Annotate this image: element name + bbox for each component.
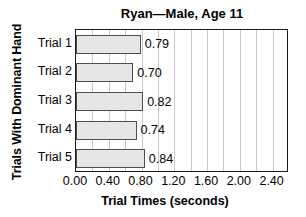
bar-row: 0.79 — [76, 35, 287, 54]
bar — [76, 92, 143, 111]
y-axis-tick-label: Trial 2 — [22, 62, 72, 81]
bar-value-label: 0.70 — [133, 66, 161, 80]
bar-series: 0.790.700.820.740.84 — [76, 30, 287, 171]
bar-value-label: 0.84 — [145, 152, 173, 166]
bar-row: 0.74 — [76, 121, 287, 140]
plot-area: 0.790.700.820.740.84 — [75, 29, 288, 172]
bar — [76, 35, 141, 54]
x-axis-tick-label: 0.40 — [96, 174, 120, 188]
x-axis-tick-label: 1.60 — [194, 174, 218, 188]
bar-value-label: 0.74 — [137, 123, 165, 137]
chart-title: Ryan—Male, Age 11 — [75, 6, 289, 21]
y-axis-tick-labels: Trial 1Trial 2Trial 3Trial 4Trial 5 — [22, 29, 72, 172]
bar-row: 0.84 — [76, 149, 287, 168]
y-axis-tick-label: Trial 4 — [22, 120, 72, 139]
bar-value-label: 0.82 — [143, 95, 171, 109]
x-axis-title: Trial Times (seconds) — [40, 194, 290, 208]
bar-value-label: 0.79 — [141, 37, 169, 51]
y-axis-tick-label: Trial 3 — [22, 91, 72, 110]
x-axis-tick-label: 2.40 — [259, 174, 283, 188]
bar — [76, 121, 137, 140]
x-axis-tick-label: 0.80 — [128, 174, 152, 188]
x-axis-tick-label: 1.20 — [161, 174, 185, 188]
bar-row: 0.70 — [76, 63, 287, 82]
x-axis-tick-label: 2.00 — [227, 174, 251, 188]
x-axis-tick-label: 0.00 — [63, 174, 87, 188]
bar — [76, 149, 145, 168]
x-axis-tick-labels: 0.000.400.801.201.602.002.40 — [75, 174, 288, 190]
y-axis-tick-label: Trial 1 — [22, 34, 72, 53]
y-axis-tick-label: Trial 5 — [22, 148, 72, 167]
bar-row: 0.82 — [76, 92, 287, 111]
bar-chart: Trials With Dominant Hand Ryan—Male, Age… — [0, 0, 306, 217]
bar — [76, 63, 133, 82]
